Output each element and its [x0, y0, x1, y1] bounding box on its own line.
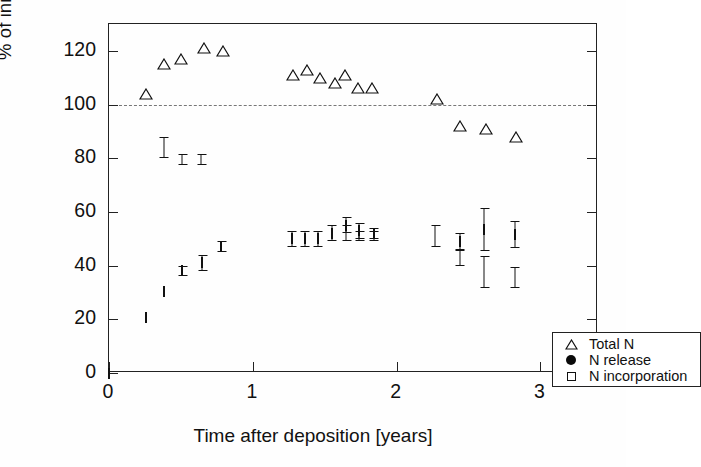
y-tick — [109, 319, 118, 320]
y-tick-label: 0 — [36, 362, 96, 382]
y-tick-label: 100 — [36, 94, 96, 114]
x-tick — [397, 362, 398, 371]
y-tick — [109, 158, 118, 159]
x-tick-label: 3 — [534, 382, 545, 402]
legend-item-n-incorporation: N incorporation — [559, 368, 695, 384]
y-tick — [109, 105, 118, 106]
error-bar — [514, 267, 515, 288]
y-tick — [109, 373, 118, 374]
y-tick — [109, 266, 118, 267]
y-axis-title: % of initial litter N — [0, 0, 16, 60]
x-tick-label: 0 — [103, 382, 114, 402]
open-square-marker — [373, 228, 375, 239]
y-tick-label: 20 — [36, 309, 96, 329]
y-tick — [109, 51, 118, 52]
x-tick — [253, 362, 254, 371]
open-triangle-marker — [479, 123, 493, 135]
error-bar — [435, 225, 436, 246]
y-tick-label: 60 — [36, 201, 96, 221]
y-tick-right — [587, 266, 596, 267]
open-square-marker — [220, 241, 222, 252]
x-axis-title: Time after deposition [years] — [0, 425, 626, 447]
y-tick-label: 120 — [36, 40, 96, 60]
x-tick-label: 2 — [390, 382, 401, 402]
open-triangle-marker — [509, 131, 523, 143]
y-tick — [109, 212, 118, 213]
legend-item-n-release: N release — [559, 352, 695, 368]
reference-line-100 — [109, 105, 596, 106]
open-square-icon — [559, 372, 583, 381]
x-tick — [540, 362, 541, 371]
open-square-marker — [304, 233, 306, 244]
open-triangle-marker — [430, 93, 444, 105]
open-triangle-marker — [157, 58, 171, 70]
legend: Total N N release N incorporation — [552, 332, 701, 387]
y-tick-right — [587, 158, 596, 159]
y-tick-right — [587, 51, 596, 52]
open-square-marker — [514, 229, 516, 240]
open-square-marker — [181, 265, 183, 276]
open-square-marker — [459, 236, 461, 247]
open-triangle-marker — [139, 88, 153, 100]
plot-area: Total N N release N incorporation — [108, 23, 597, 372]
error-bar — [459, 250, 460, 266]
y-tick-label: 40 — [36, 255, 96, 275]
open-square-marker — [163, 286, 165, 297]
open-square-marker — [483, 224, 485, 235]
legend-item-total-n: Total N — [559, 336, 695, 352]
open-triangle-marker — [197, 42, 211, 54]
open-square-marker — [145, 312, 147, 323]
open-triangle-marker — [453, 120, 467, 132]
open-triangle-marker — [351, 82, 365, 94]
open-square-marker — [358, 225, 360, 236]
legend-label-n-incorporation: N incorporation — [583, 369, 687, 384]
open-triangle-marker — [174, 53, 188, 65]
open-square-marker — [331, 228, 333, 239]
y-tick-right — [587, 319, 596, 320]
error-bar — [484, 256, 485, 288]
open-triangle-marker — [313, 72, 327, 84]
y-tick-label: 80 — [36, 147, 96, 167]
y-tick-right — [587, 212, 596, 213]
open-triangle-marker — [286, 69, 300, 81]
open-square-marker — [108, 368, 110, 379]
legend-label-total-n: Total N — [583, 337, 634, 352]
error-bar — [201, 154, 202, 165]
open-triangle-marker — [216, 45, 230, 57]
open-square-marker — [317, 233, 319, 244]
open-triangle-marker — [365, 82, 379, 94]
x-tick-label: 1 — [246, 382, 257, 402]
open-square-marker — [291, 233, 293, 244]
y-tick-right — [587, 105, 596, 106]
open-triangle-marker — [338, 69, 352, 81]
filled-circle-icon — [559, 355, 583, 365]
open-square-marker — [201, 257, 203, 268]
open-triangle-marker — [300, 64, 314, 76]
legend-label-n-release: N release — [583, 353, 651, 368]
open-square-marker — [345, 220, 347, 231]
error-bar — [182, 154, 183, 165]
error-bar — [163, 137, 164, 158]
open-triangle-icon — [559, 339, 583, 350]
